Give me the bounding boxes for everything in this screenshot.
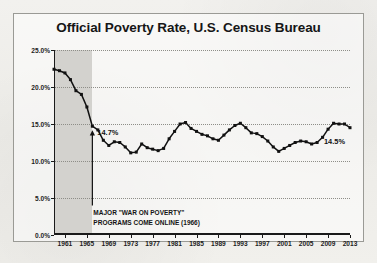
- y-tick-label: 0.0%: [35, 232, 50, 239]
- x-tick-mark: [87, 235, 88, 238]
- x-tick-label: 1981: [167, 240, 182, 247]
- page-background: Official Poverty Rate, U.S. Census Burea…: [0, 0, 377, 263]
- x-tick-label: 1993: [233, 240, 248, 247]
- x-tick-label: 2001: [277, 240, 292, 247]
- x-tick-mark: [284, 235, 285, 238]
- x-tick-label: 1973: [123, 240, 138, 247]
- y-tick-label: 15.0%: [31, 121, 50, 128]
- x-tick-label: 1965: [80, 240, 95, 247]
- x-tick-mark: [175, 235, 176, 238]
- chart-title: Official Poverty Rate, U.S. Census Burea…: [14, 20, 363, 35]
- x-tick-label: 1961: [58, 240, 73, 247]
- x-tick-mark: [197, 235, 198, 238]
- x-tick-label: 1985: [189, 240, 204, 247]
- x-tick-mark: [306, 235, 307, 238]
- annotation-text: MAJOR "WAR ON POVERTY" PROGRAMS COME ONL…: [93, 208, 200, 227]
- y-tick-mark: [51, 235, 54, 236]
- annotation-arrow-icon: [54, 50, 350, 235]
- x-tick-label: 2005: [299, 240, 314, 247]
- y-tick-label: 25.0%: [31, 47, 50, 54]
- x-tick-mark: [65, 235, 66, 238]
- x-tick-mark: [218, 235, 219, 238]
- y-tick-label: 10.0%: [31, 158, 50, 165]
- x-tick-label: 1969: [101, 240, 116, 247]
- x-tick-label: 2013: [343, 240, 358, 247]
- y-tick-label: 20.0%: [31, 84, 50, 91]
- x-tick-mark: [109, 235, 110, 238]
- y-tick-label: 5.0%: [35, 195, 50, 202]
- annotation-line-1: MAJOR "WAR ON POVERTY": [93, 208, 200, 217]
- chart-panel: Official Poverty Rate, U.S. Census Burea…: [13, 13, 364, 242]
- x-tick-mark: [240, 235, 241, 238]
- x-tick-mark: [131, 235, 132, 238]
- x-tick-label: 1997: [255, 240, 270, 247]
- x-tick-mark: [350, 235, 351, 238]
- x-tick-mark: [262, 235, 263, 238]
- x-tick-mark: [328, 235, 329, 238]
- x-tick-label: 1977: [145, 240, 160, 247]
- x-tick-label: 1989: [211, 240, 226, 247]
- x-tick-mark: [153, 235, 154, 238]
- annotation-line-2: PROGRAMS COME ONLINE (1966): [93, 218, 200, 227]
- x-tick-label: 2009: [321, 240, 336, 247]
- plot-area: 25.0%20.0%15.0%10.0%5.0%0.0% 19611965196…: [54, 50, 350, 235]
